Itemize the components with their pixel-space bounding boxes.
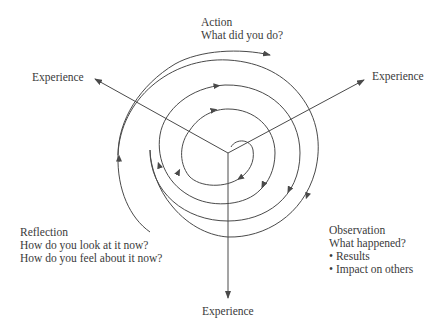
reflection-title: Reflection (20, 226, 162, 239)
experience-label-upper-right: Experience (372, 70, 424, 83)
action-question: What did you do? (201, 29, 283, 42)
observation-question: What happened? (329, 237, 413, 250)
observation-bullet-impact: Impact on others (329, 263, 413, 276)
observation-bullet-results: Results (329, 250, 413, 263)
action-title: Action (201, 16, 283, 29)
experience-text: Experience (372, 70, 424, 83)
observation-label: Observation What happened? Results Impac… (329, 224, 413, 276)
spiral-path (118, 51, 318, 239)
spiral-diagram (0, 0, 447, 329)
experience-text: Experience (202, 305, 254, 318)
experience-label-bottom: Experience (202, 305, 254, 318)
reflection-question-2: How do you feel about it now? (20, 252, 162, 265)
experience-label-upper-left: Experience (32, 71, 84, 84)
reflection-label: Reflection How do you look at it now? Ho… (20, 226, 162, 265)
experience-text: Experience (32, 71, 84, 84)
observation-title: Observation (329, 224, 413, 237)
experience-arrow-upper-left (95, 79, 228, 153)
action-label: Action What did you do? (201, 16, 283, 42)
reflection-question-1: How do you look at it now? (20, 239, 162, 252)
